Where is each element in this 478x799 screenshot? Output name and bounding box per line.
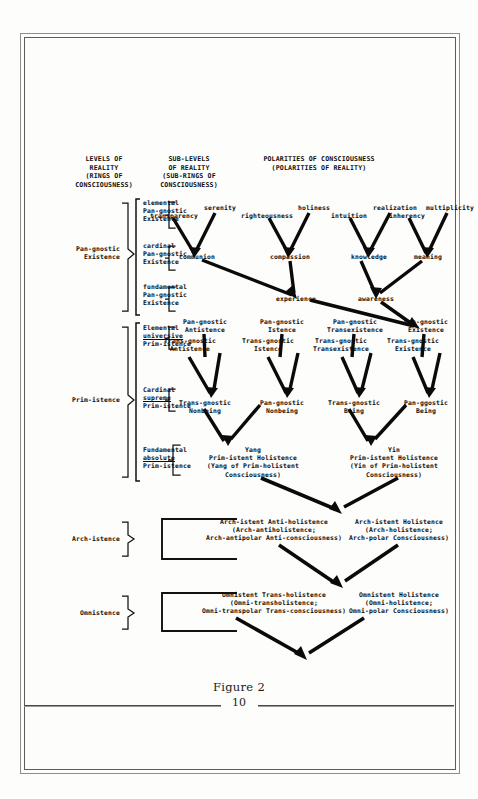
polarity-knowledge: knowledge <box>351 253 387 261</box>
header-sub-levels-of-reality: SUB-LEVELSOF REALITY(SUB-RINGS OFCONSCIO… <box>160 155 218 189</box>
node-pan-gnostic-istence: Pan-gnosticIstence <box>260 318 304 334</box>
sublevel-fundamental-pan-gnostic-existence: fundamentalPan-gnosticExistence <box>143 283 187 308</box>
header-levels-of-reality: LEVELS OFREALITY(RINGS OFCONSCIOUSNESS) <box>75 155 133 189</box>
sublevel-fundamental-absolute-prim-istence: FundamentalabsolutePrim-istence <box>143 446 191 471</box>
node-trans-gnostic-transexistence: Trans-gnosticTransexistence <box>313 337 369 353</box>
polarity-intuition: intuition <box>331 212 367 220</box>
node-trans-gnostic-nonbeing: Trans-gnosticNonbeing <box>179 399 231 415</box>
node-trans-gnostic-antistence: Trans-gnosticAntistence <box>164 337 216 353</box>
folio-rule-right <box>258 705 454 707</box>
arrow-head-group-prim <box>206 387 436 398</box>
node-yin-prim-istent-holistence: YinPrim-istent Holistence(Yin of Prim-ho… <box>350 446 438 479</box>
polarity-awareness: awareness <box>358 295 394 303</box>
header-polarities-of-consciousness: POLARITIES OF CONSCIOUSNESS(POLARITIES O… <box>263 155 374 172</box>
polarity-inherency: inherency <box>389 212 425 220</box>
node-trans-gnostic-istence: Trans-gnosticIstence <box>242 337 294 353</box>
node-pan-ggostic-being: Pan-ggosticBeing <box>404 399 448 415</box>
folio-rule-left <box>24 705 221 707</box>
figure-canvas: LEVELS OFREALITY(RINGS OFCONSCIOUSNESS) … <box>24 37 454 768</box>
polarity-realization: realization <box>373 204 417 212</box>
arrow-head-group-being <box>222 435 377 446</box>
level-label-prim-istence: Prim-istence <box>72 396 120 404</box>
sublevel-group-bars <box>136 199 140 481</box>
level-label-omnistence: Omnistence <box>80 609 120 617</box>
polarity-serenity: serenity <box>204 204 236 212</box>
node-trans-gnostic-being: Trans-gnosticBeing <box>328 399 380 415</box>
node-arch-istent-anti-holistence: Arch-istent Anti-holistence(Arch-antihol… <box>206 518 342 543</box>
arrow-head-group-tier1 <box>189 247 434 258</box>
node-trans-gnostic-existence: Trans-gnosticExistence <box>387 337 439 353</box>
polarity-communion: communion <box>179 253 215 261</box>
polarity-experience: experience <box>276 295 316 303</box>
node-pan-gnostic-nonbeing: Pan-gnosticNonbeing <box>260 399 304 415</box>
arrow-group-holistence <box>261 478 398 509</box>
brace-group-levels <box>122 203 134 629</box>
node-pan-gnostic-transexistence: Pan-gnosticTransexistence <box>327 318 383 334</box>
node-omnistent-trans-holistence: Omnistent Trans-holistence(Omni-transhol… <box>202 591 346 616</box>
figure-caption: Figure 2 <box>213 680 265 694</box>
level-label-arch-istence: Arch-istence <box>72 535 120 543</box>
page-number: 10 <box>232 696 246 709</box>
node-arch-istent-holistence: Arch-istent Holistence(Arch-holistence;A… <box>349 518 449 543</box>
polarity-holiness: holiness <box>298 204 330 212</box>
arrow-head-arch <box>330 575 343 588</box>
node-omnistent-holistence: Omnistent Holistence(Omni-holistence;Omn… <box>349 591 449 616</box>
polarity-transparency: transparency <box>150 212 198 220</box>
polarity-compassion: compassion <box>270 253 310 261</box>
level-label-pan-gnostic-existence: Pan-gnosticExistence <box>76 245 120 261</box>
node-pan-gnostic-existence: Pan-gnosticExistence <box>404 318 448 334</box>
node-yang-prim-istent-holistence: YangPrim-istent Holistence(Yang of Prim-… <box>207 446 299 479</box>
node-pan-gnostic-antistence: Pan-gnosticAntistence <box>183 318 227 334</box>
page-canvas: LEVELS OFREALITY(RINGS OFCONSCIOUSNESS) … <box>0 0 478 799</box>
arrow-head-omni <box>294 646 307 660</box>
arrow-group-arch <box>279 545 398 583</box>
polarity-multiplicity: multiplicity <box>426 204 474 212</box>
polarity-meaning: meaning <box>414 253 442 261</box>
polarity-righteousness: righteousness <box>241 212 293 220</box>
arrow-head-holistence <box>329 501 342 514</box>
arrow-group-tier2 <box>202 260 422 295</box>
